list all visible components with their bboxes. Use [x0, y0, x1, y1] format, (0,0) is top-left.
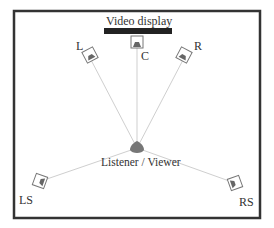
speaker-r-label: R — [194, 40, 202, 52]
listener-label: Listener / Viewer — [101, 157, 181, 169]
video-display-bar — [104, 28, 172, 34]
surround-layout-diagram — [0, 0, 274, 228]
speaker-c-icon — [131, 36, 143, 48]
speaker-ls-label: LS — [19, 194, 33, 206]
video-display-label: Video display — [106, 15, 172, 27]
speaker-rs-label: RS — [239, 196, 254, 208]
speaker-l-label: L — [76, 40, 83, 52]
speaker-r-icon — [176, 47, 192, 63]
listener-head-icon — [130, 141, 144, 153]
speaker-ls-icon — [32, 173, 47, 188]
speaker-c-label: C — [141, 50, 149, 62]
speaker-rs-icon — [227, 175, 242, 190]
speaker-l-icon — [82, 47, 98, 63]
